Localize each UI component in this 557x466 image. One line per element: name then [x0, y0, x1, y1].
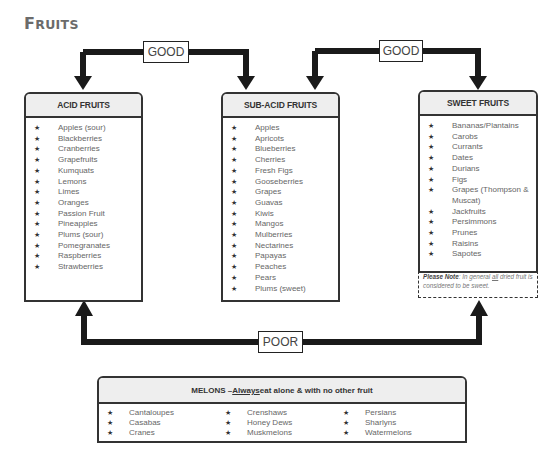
list-item: ★Oranges	[26, 198, 141, 209]
list-item-label: Raisins	[452, 239, 478, 248]
list-item-label: Muskmelons	[247, 428, 292, 437]
star-bullet-icon: ★	[428, 217, 434, 228]
list-item-label: Cranes	[129, 428, 155, 437]
note-label: Please Note	[423, 273, 459, 280]
list-item: ★Apples	[223, 123, 338, 134]
star-bullet-icon: ★	[231, 262, 237, 273]
acid-fruits-list: ★Apples (sour)★Blackberries★Cranberries★…	[26, 118, 141, 273]
list-item-label: Pineapples	[58, 219, 98, 228]
star-bullet-icon: ★	[231, 155, 237, 166]
list-item: ★Fresh Figs	[223, 166, 338, 177]
list-item: ★Passion Fruit	[26, 209, 141, 220]
list-item: ★Cranberries	[26, 144, 141, 155]
acid-fruits-header: ACID FRUITS	[26, 94, 141, 118]
list-item-label: Casabas	[129, 418, 161, 427]
star-bullet-icon: ★	[428, 249, 434, 260]
list-item: ★Gooseberries	[223, 177, 338, 188]
note-text-pre: : In general	[459, 273, 492, 280]
list-item: ★Prunes	[420, 228, 536, 239]
melons-column-2: ★Crenshaws★Honey Dews★Muskmelons	[217, 408, 335, 438]
star-bullet-icon: ★	[34, 166, 40, 177]
star-bullet-icon: ★	[107, 418, 113, 428]
acid-fruits-box: ACID FRUITS ★Apples (sour)★Blackberries★…	[24, 92, 143, 302]
list-item-label: Apricots	[255, 134, 284, 143]
good-label-1: GOOD	[143, 41, 189, 63]
list-item-label: Crenshaws	[247, 408, 287, 417]
list-item: ★Blackberries	[26, 134, 141, 145]
list-item: ★Nectarines	[223, 241, 338, 252]
sweet-note: Please Note: In general all dried fruit …	[418, 271, 538, 298]
list-item: ★Guavas	[223, 198, 338, 209]
sweet-fruits-header: SWEET FRUITS	[420, 92, 536, 116]
star-bullet-icon: ★	[231, 219, 237, 230]
star-bullet-icon: ★	[428, 175, 434, 186]
list-item: ★Pomegranates	[26, 241, 141, 252]
list-item-label: Grapefruits	[58, 155, 98, 164]
list-item: ★Cantaloupes	[99, 408, 217, 418]
star-bullet-icon: ★	[231, 166, 237, 177]
star-bullet-icon: ★	[231, 134, 237, 145]
list-item: ★Watermelons	[335, 428, 453, 438]
list-item: ★Grapefruits	[26, 155, 141, 166]
list-item-label: Currants	[452, 142, 483, 151]
list-item-label: Jackfruits	[452, 207, 486, 216]
star-bullet-icon: ★	[231, 230, 237, 241]
list-item-label: Cantaloupes	[129, 408, 174, 417]
sweet-fruits-box: SWEET FRUITS ★Bananas/Plantains★Carobs★C…	[418, 90, 538, 273]
list-item: ★Persians	[335, 408, 453, 418]
list-item-label: Bananas/Plantains	[452, 121, 519, 130]
melons-header-post: eat alone & with no other fruit	[260, 386, 373, 395]
star-bullet-icon: ★	[34, 241, 40, 252]
list-item-label: Sapotes	[452, 249, 481, 258]
list-item-label: Carobs	[452, 132, 478, 141]
list-item-label: Persimmons	[452, 217, 496, 226]
list-item-label: Kiwis	[255, 209, 274, 218]
melons-header: MELONS – Always eat alone & with no othe…	[99, 378, 465, 404]
list-item-label: Pears	[255, 273, 276, 282]
sweet-fruits-list: ★Bananas/Plantains★Carobs★Currants★Dates…	[420, 116, 536, 260]
list-item: ★Jackfruits	[420, 207, 536, 218]
star-bullet-icon: ★	[428, 164, 434, 175]
list-item: ★Pears	[223, 273, 338, 284]
star-bullet-icon: ★	[343, 428, 349, 438]
list-item: ★Bananas/Plantains	[420, 121, 536, 132]
list-item: ★Durians	[420, 164, 536, 175]
star-bullet-icon: ★	[34, 209, 40, 220]
star-bullet-icon: ★	[231, 177, 237, 188]
list-item-label: Cherries	[255, 155, 285, 164]
list-item-label: Prunes	[452, 228, 477, 237]
list-item: ★Apricots	[223, 134, 338, 145]
star-bullet-icon: ★	[34, 198, 40, 209]
list-item-label: Mulberries	[255, 230, 292, 239]
star-bullet-icon: ★	[225, 408, 231, 418]
star-bullet-icon: ★	[34, 177, 40, 188]
list-item-label: Nectarines	[255, 241, 293, 250]
list-item: ★Dates	[420, 153, 536, 164]
list-item: ★Kumquats	[26, 166, 141, 177]
list-item-label: Plums (sour)	[58, 230, 103, 239]
list-item: ★Figs	[420, 175, 536, 186]
melons-column-1: ★Cantaloupes★Casabas★Cranes	[99, 408, 217, 438]
list-item: ★Pineapples	[26, 219, 141, 230]
star-bullet-icon: ★	[231, 123, 237, 134]
star-bullet-icon: ★	[34, 123, 40, 134]
arrowhead-down-icon	[74, 76, 92, 90]
arrowhead-up-icon	[75, 300, 93, 316]
list-item: ★Currants	[420, 142, 536, 153]
list-item-label: Papayas	[255, 251, 286, 260]
melons-header-emph: Always	[232, 386, 260, 395]
list-item-label: Raspberries	[58, 251, 101, 260]
list-item-label: Lemons	[58, 177, 86, 186]
list-item-label: Apples (sour)	[58, 123, 106, 132]
star-bullet-icon: ★	[231, 209, 237, 220]
star-bullet-icon: ★	[343, 418, 349, 428]
list-item: ★Crenshaws	[217, 408, 335, 418]
list-item: ★Persimmons	[420, 217, 536, 228]
star-bullet-icon: ★	[231, 273, 237, 284]
star-bullet-icon: ★	[231, 187, 237, 198]
list-item: ★Peaches	[223, 262, 338, 273]
list-item-label: Gooseberries	[255, 177, 303, 186]
arrowhead-up-icon	[470, 300, 488, 316]
star-bullet-icon: ★	[34, 262, 40, 273]
subacid-fruits-list: ★Apples★Apricots★Blueberries★Cherries★Fr…	[223, 118, 338, 294]
